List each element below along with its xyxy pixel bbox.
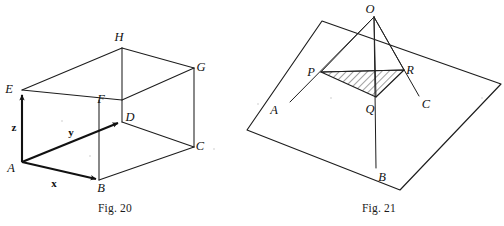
vector-label-y: y [68, 126, 74, 138]
vertex-label-G: G [196, 60, 205, 74]
vector-label-x: x [51, 177, 57, 189]
figure-canvas: E A B C D F G H x y z Fig. 20 [0, 0, 504, 226]
figure-20-caption: Fig. 20 [98, 202, 132, 215]
vertex-label-E: E [4, 82, 13, 96]
vertex-label-A: A [6, 161, 15, 175]
edge-H-G [122, 48, 194, 68]
figure-20-group: E A B C D F G H x y z Fig. 20 [4, 30, 205, 215]
vertex-label-P: P [306, 65, 315, 79]
edge-O-P [321, 17, 374, 72]
edge-C-D [122, 122, 194, 147]
vector-x-arrow [22, 162, 96, 179]
shaded-triangle-PQR [321, 70, 404, 97]
edge-F-E [22, 90, 122, 100]
vertex-label-F: F [96, 92, 105, 106]
figures-svg: E A B C D F G H x y z Fig. 20 [0, 0, 504, 226]
edge-B-C [99, 147, 194, 180]
vertex-label-B2: B [378, 170, 386, 184]
vertex-label-H: H [113, 30, 124, 44]
edge-E-H [22, 48, 122, 90]
edge-O-R [374, 17, 404, 70]
vertex-label-R: R [405, 63, 414, 77]
vector-label-z: z [12, 121, 17, 133]
cuboid-edges [22, 48, 194, 180]
edge-G-F [122, 68, 194, 100]
vertex-label-Q: Q [365, 102, 374, 116]
vertex-label-O: O [365, 2, 374, 16]
vertex-label-A2: A [269, 103, 278, 117]
figure-21-caption: Fig. 21 [362, 202, 396, 215]
figure-21-group: O P Q R A B C Fig. 21 [247, 2, 501, 215]
vertex-label-C: C [196, 139, 205, 153]
vertex-label-D: D [124, 110, 134, 124]
vertex-label-B: B [97, 181, 105, 195]
vertex-label-C2: C [422, 97, 431, 111]
